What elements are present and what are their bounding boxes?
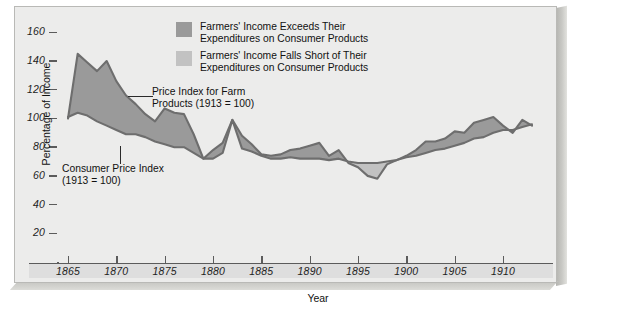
legend-item-income-exceeds: Farmers' Income Exceeds Their Expenditur…: [176, 21, 368, 44]
y-tick-label-40: 40: [11, 198, 45, 210]
legend-swatch-income-exceeds: [176, 22, 192, 37]
legend-item-income-falls-short: Farmers' Income Falls Short of Their Exp…: [176, 50, 368, 73]
x-tick-1870: [116, 256, 117, 263]
x-tick-label-1890: 1890: [290, 265, 330, 277]
x-tick-1900: [406, 256, 407, 263]
leader-line-farm-stem: [128, 96, 129, 97]
annotation-farm-price-index: Price Index for Farm Products (1913 = 10…: [152, 86, 254, 109]
y-tick-160: [49, 32, 57, 33]
annotation-consumer-price-index: Consumer Price Index (1913 = 100): [62, 163, 164, 186]
x-tick-label-1870: 1870: [96, 265, 136, 277]
y-tick-20: [49, 233, 57, 234]
band-income-exceeds: [406, 117, 508, 157]
x-tick-1890: [310, 256, 311, 263]
x-tick-1885: [261, 256, 262, 263]
x-tick-1895: [358, 256, 359, 263]
x-tick-label-1880: 1880: [193, 265, 233, 277]
y-tick-label-20: 20: [11, 226, 45, 238]
x-axis-title: Year: [278, 292, 358, 304]
x-tick-label-1875: 1875: [145, 265, 185, 277]
leader-line-farm: [128, 96, 153, 97]
y-axis-title: Percentage of Income: [40, 44, 52, 184]
x-tick-label-1895: 1895: [338, 265, 378, 277]
chart-figure: 16014012010080604020 1865187018751880188…: [0, 0, 618, 313]
y-tick-label-160: 160: [11, 25, 45, 37]
legend-label-income-exceeds: Farmers' Income Exceeds Their Expenditur…: [200, 21, 368, 44]
x-tick-1880: [213, 256, 214, 263]
x-tick-label-1905: 1905: [435, 265, 475, 277]
leader-line-cpi: [120, 146, 121, 164]
legend-swatch-income-falls-short: [176, 51, 192, 66]
x-tick-label-1865: 1865: [48, 265, 88, 277]
x-tick-label-1900: 1900: [386, 265, 426, 277]
frame-bevel-right: [556, 6, 567, 286]
x-tick-1875: [165, 256, 166, 263]
chart-legend: Farmers' Income Exceeds Their Expenditur…: [176, 21, 368, 79]
x-tick-1910: [503, 256, 504, 263]
x-tick-label-1885: 1885: [241, 265, 281, 277]
legend-label-income-falls-short: Farmers' Income Falls Short of Their Exp…: [200, 50, 368, 73]
x-tick-1905: [455, 256, 456, 263]
y-tick-40: [49, 204, 57, 205]
x-tick-1865: [68, 256, 69, 263]
x-tick-label-1910: 1910: [483, 265, 523, 277]
